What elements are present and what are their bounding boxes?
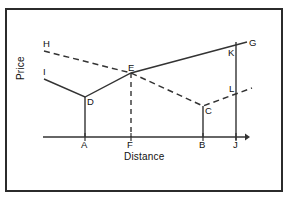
dashed-schedule-series <box>44 51 252 106</box>
point-label-F: F <box>127 139 133 150</box>
point-label-K: K <box>228 47 234 58</box>
dashed-schedule-line <box>44 51 252 106</box>
point-label-H: H <box>43 38 50 49</box>
point-label-D: D <box>87 96 94 107</box>
point-label-J: J <box>233 139 238 150</box>
point-label-C: C <box>205 105 212 116</box>
vertical-drop-group <box>85 42 236 140</box>
x-axis-arrow-icon <box>245 134 250 141</box>
axis-group <box>43 134 250 141</box>
point-label-L: L <box>229 83 234 94</box>
solid-schedule-series <box>44 42 247 97</box>
point-label-I: I <box>43 66 46 77</box>
y-axis-title: Price <box>15 56 26 80</box>
x-axis-title: Distance <box>124 151 165 162</box>
point-label-E: E <box>128 62 134 73</box>
point-label-B: B <box>199 139 205 150</box>
point-label-G: G <box>249 37 256 48</box>
point-label-A: A <box>81 139 87 150</box>
diagram-canvas <box>0 0 290 202</box>
solid-schedule-line <box>44 42 247 97</box>
